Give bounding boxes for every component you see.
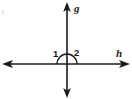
line-label-h: h xyxy=(116,48,122,59)
line-label-g: g xyxy=(74,3,80,14)
geometry-figure: g h 1 2 xyxy=(0,0,132,99)
angle-label-2: 2 xyxy=(74,48,79,58)
figure-svg xyxy=(0,0,132,99)
angle-label-1: 1 xyxy=(53,49,58,59)
